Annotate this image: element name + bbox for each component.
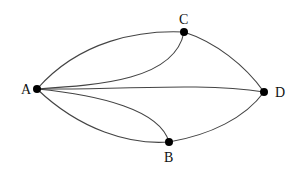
edge-a-b-inner bbox=[37, 89, 169, 142]
label-d: D bbox=[275, 85, 285, 100]
edge-a-d bbox=[37, 87, 264, 92]
edge-a-c-outer bbox=[37, 32, 184, 89]
node-c bbox=[180, 28, 188, 36]
node-b bbox=[165, 138, 173, 146]
label-c: C bbox=[179, 12, 188, 27]
label-b: B bbox=[164, 150, 173, 165]
edge-a-b-outer bbox=[37, 89, 169, 142]
node-d bbox=[260, 88, 268, 96]
node-a bbox=[33, 85, 41, 93]
edge-a-c-inner bbox=[37, 32, 184, 89]
label-a: A bbox=[21, 82, 32, 97]
graph-diagram: A C D B bbox=[0, 0, 300, 173]
edge-c-d bbox=[184, 32, 264, 92]
edge-b-d bbox=[169, 92, 264, 142]
